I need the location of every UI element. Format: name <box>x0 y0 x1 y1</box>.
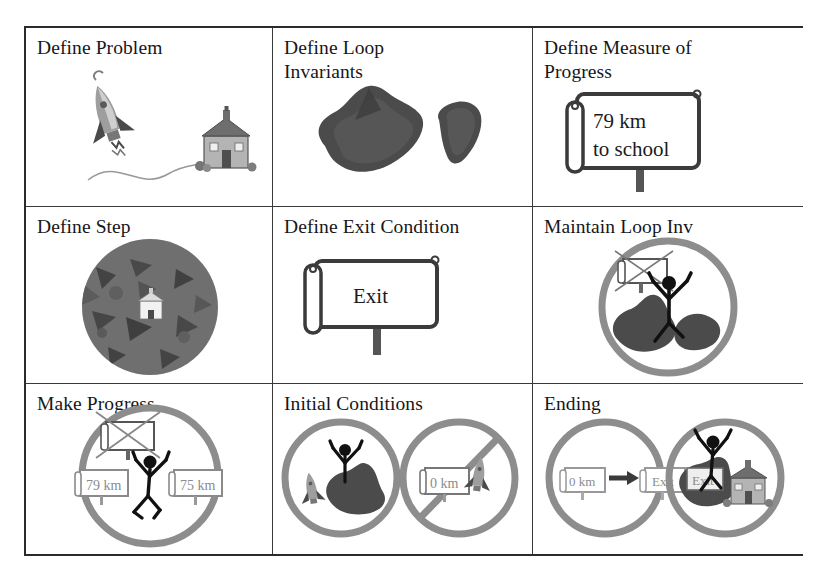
sign-line-1: Exit <box>353 284 388 308</box>
cell-define-exit-condition: Define Exit Condition Exit <box>273 207 533 384</box>
mini-sign-left: 79 km <box>86 478 122 493</box>
art-rocket-to-school <box>26 28 272 206</box>
art-ending: 0 km Exit Exit <box>533 384 803 554</box>
art-distance-sign: 79 km to school <box>533 28 803 206</box>
rock-small <box>438 102 481 164</box>
cell-define-measure-of-progress: Define Measure of Progress 79 km to scho… <box>533 28 803 207</box>
cell-initial-conditions: Initial Conditions <box>273 384 533 554</box>
cell-define-loop-invariants: Define Loop Invariants <box>273 28 533 207</box>
cell-ending: Ending 0 km Exit <box>533 384 803 554</box>
art-make-progress: 79 km 75 km <box>26 384 272 554</box>
rock-large <box>319 86 424 172</box>
cell-make-progress: Make Progress 79 km <box>26 384 273 554</box>
mini-sign-right: 75 km <box>180 478 216 493</box>
mini-sign-distance: 0 km <box>569 474 595 489</box>
art-exit-sign: Exit <box>273 207 532 383</box>
design-table: Define Problem <box>24 26 803 556</box>
cell-maintain-loop-inv: Maintain Loop Inv <box>533 207 803 384</box>
cell-define-step: Define Step <box>26 207 273 384</box>
mini-sign-zero: 0 km <box>430 476 459 491</box>
sign-line-2: to school <box>593 137 670 161</box>
art-two-rocks <box>273 28 532 206</box>
cell-define-problem: Define Problem <box>26 28 273 207</box>
art-textured-circle-with-school <box>26 207 272 383</box>
sign-line-1: 79 km <box>593 109 646 133</box>
art-initial-conditions: 0 km <box>273 384 532 554</box>
art-maintain-invariant <box>533 207 803 383</box>
